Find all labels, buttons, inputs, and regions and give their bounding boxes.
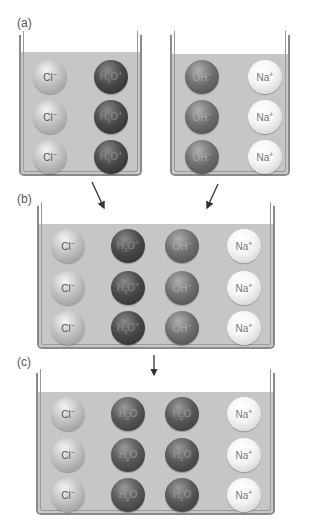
ion-cl: Cl− — [51, 311, 85, 345]
ion-cl: Cl− — [51, 229, 85, 263]
ion-na: Na+ — [248, 140, 282, 174]
ion-h2o: H2O — [165, 478, 199, 512]
ion-cl: Cl− — [51, 271, 85, 305]
ion-na: Na+ — [227, 229, 261, 263]
ion-h3o: H3O+ — [111, 311, 145, 345]
ion-na: Na+ — [227, 311, 261, 345]
ion-na: Na+ — [227, 478, 261, 512]
ion-na: Na+ — [248, 100, 282, 134]
ion-na: Na+ — [227, 271, 261, 305]
ion-h3o: H3O+ — [111, 271, 145, 305]
ion-h3o: H3O+ — [94, 100, 128, 134]
ion-h2o: H2O — [111, 397, 145, 431]
ion-oh: OH− — [165, 229, 199, 263]
ion-na: Na+ — [227, 397, 261, 431]
ion-h2o: H2O — [165, 397, 199, 431]
ion-h2o: H2O — [111, 478, 145, 512]
arrow-down-right-icon — [92, 182, 104, 208]
ion-cl: Cl− — [51, 478, 85, 512]
ion-h2o: H2O — [111, 438, 145, 472]
ion-h3o: H3O+ — [94, 140, 128, 174]
ion-oh: OH− — [165, 271, 199, 305]
ion-oh: OH− — [185, 100, 219, 134]
ion-oh: OH− — [185, 60, 219, 94]
ion-oh: OH− — [165, 311, 199, 345]
ion-oh: OH− — [185, 140, 219, 174]
ion-cl: Cl− — [51, 397, 85, 431]
ion-na: Na+ — [227, 438, 261, 472]
ion-cl: Cl− — [33, 60, 67, 94]
arrow-down-left-icon — [207, 184, 218, 208]
ion-cl: Cl− — [33, 100, 67, 134]
ion-cl: Cl− — [33, 140, 67, 174]
ion-na: Na+ — [248, 60, 282, 94]
ion-h2o: H2O — [165, 438, 199, 472]
ion-h3o: H3O+ — [111, 229, 145, 263]
ion-cl: Cl− — [51, 438, 85, 472]
ion-h3o: H3O+ — [94, 60, 128, 94]
